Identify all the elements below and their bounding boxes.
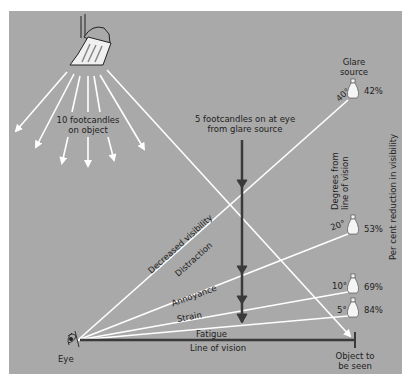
glare-label: 5 footcandles on at eye from glare sourc… xyxy=(186,114,304,134)
glare-intensity-arrow xyxy=(237,140,247,323)
lamp-icon xyxy=(70,14,111,65)
eye-label: Eye xyxy=(58,354,74,364)
eye-icon xyxy=(68,331,79,347)
reduction-label-53: 53% xyxy=(364,224,383,234)
lamp-label: 10 footcandles on object xyxy=(52,115,124,135)
object-label: Object to be seen xyxy=(326,351,384,371)
degrees-axis-label: Degrees from line of vision xyxy=(330,152,350,210)
reduction-label-69: 69% xyxy=(364,282,383,292)
reduction-axis-label: Per cent reduction in visibility xyxy=(388,134,398,260)
glare-source-label: Glare source xyxy=(333,57,375,77)
bulb-icon-10 xyxy=(347,274,358,293)
bulb-icon-5 xyxy=(347,298,358,317)
angle-label-5: 5° xyxy=(337,305,347,315)
line-of-vision-label: Line of vision xyxy=(190,343,246,353)
effect-fatigue: Fatigue xyxy=(196,329,227,339)
reduction-label-84: 84% xyxy=(364,305,383,315)
reduction-label-42: 42% xyxy=(364,86,383,96)
bulb-icon-20 xyxy=(347,215,358,234)
angle-label-10: 10° xyxy=(332,281,347,291)
